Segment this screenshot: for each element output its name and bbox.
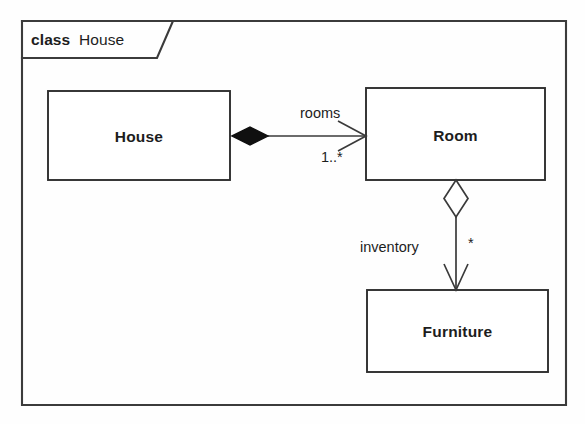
class-box-room[interactable]: Room — [366, 88, 545, 180]
aggregation-multiplicity-label: * — [468, 235, 474, 251]
relationship-room-furniture[interactable]: inventory * — [360, 180, 474, 290]
class-box-room-label: Room — [433, 127, 478, 144]
class-box-house[interactable]: House — [48, 91, 230, 180]
uml-class-diagram-canvas: class House House Room Furniture rooms 1… — [0, 0, 585, 424]
hollow-diamond-icon — [444, 180, 468, 217]
frame-name-label: House — [79, 31, 124, 48]
composition-multiplicity-label: 1..* — [321, 149, 343, 165]
composition-role-label: rooms — [300, 105, 340, 121]
class-box-furniture-label: Furniture — [423, 323, 493, 340]
class-box-house-label: House — [115, 128, 164, 145]
filled-diamond-icon — [232, 127, 268, 145]
frame-keyword-label: class — [31, 31, 70, 48]
relationship-house-room[interactable]: rooms 1..* — [232, 105, 366, 165]
aggregation-role-label: inventory — [360, 239, 420, 255]
diagram-svg: class House House Room Furniture rooms 1… — [0, 0, 585, 424]
class-box-furniture[interactable]: Furniture — [367, 290, 548, 372]
